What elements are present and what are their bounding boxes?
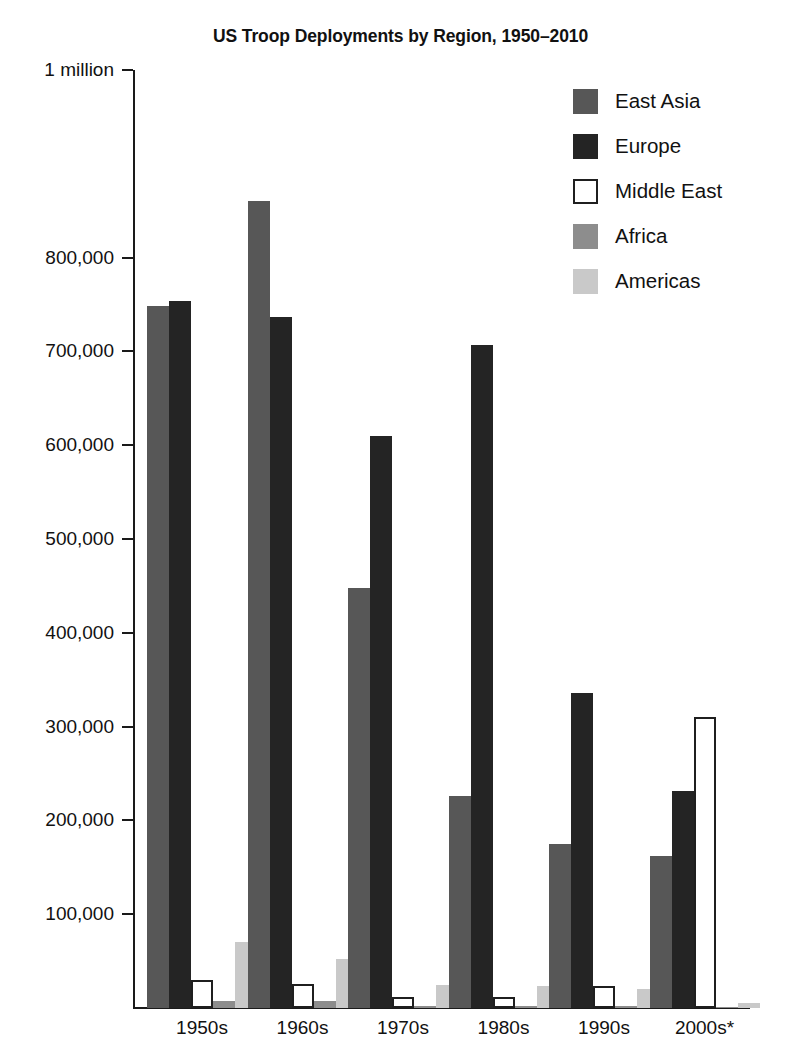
y-axis-tick-label: 400,000 [45, 622, 114, 644]
bar [449, 796, 471, 1008]
legend-label: East Asia [615, 89, 700, 113]
bar [348, 588, 370, 1008]
y-axis-tick [122, 819, 133, 821]
legend-swatch-europe-icon [573, 134, 598, 159]
legend-label: Americas [615, 269, 700, 293]
bar-group [348, 70, 458, 1008]
y-axis-tick-label: 500,000 [45, 528, 114, 550]
bar [169, 301, 191, 1008]
y-axis-tick [122, 632, 133, 634]
bar [147, 306, 169, 1008]
x-axis-label: 1980s [449, 1017, 559, 1039]
bar [213, 1001, 235, 1009]
legend-item: Europe [573, 127, 722, 165]
y-axis-tick [122, 726, 133, 728]
bar [571, 693, 593, 1008]
y-axis-tick [122, 69, 133, 71]
legend-item: Americas [573, 262, 722, 300]
legend-swatch-east-asia-icon [573, 89, 598, 114]
bar [314, 1001, 336, 1008]
bar [694, 717, 716, 1008]
bar-group [248, 70, 358, 1008]
x-axis-label: 1950s [147, 1017, 257, 1039]
y-axis-tick-label: 700,000 [45, 340, 114, 362]
bar [471, 345, 493, 1008]
legend-item: Middle East [573, 172, 722, 210]
y-axis-tick [122, 444, 133, 446]
bar [292, 984, 314, 1008]
bar [248, 201, 270, 1008]
legend-swatch-africa-icon [573, 224, 598, 249]
y-axis-line [133, 70, 135, 1009]
bar [392, 997, 414, 1008]
bar [593, 986, 615, 1009]
legend-item: East Asia [573, 82, 722, 120]
bar [716, 1007, 738, 1009]
y-axis-tick [122, 257, 133, 259]
bar [672, 791, 694, 1008]
chart-legend: East AsiaEuropeMiddle EastAfricaAmericas [573, 82, 722, 307]
y-axis-tick [122, 350, 133, 352]
legend-label: Europe [615, 134, 681, 158]
bar [414, 1006, 436, 1008]
bar [270, 317, 292, 1008]
legend-swatch-americas-icon [573, 269, 598, 294]
y-axis-tick-label: 600,000 [45, 434, 114, 456]
x-axis-label: 1960s [248, 1017, 358, 1039]
y-axis-tick-label: 300,000 [45, 716, 114, 738]
bar-group [449, 70, 559, 1008]
bar [615, 1006, 637, 1008]
y-axis-tick-label: 100,000 [45, 903, 114, 925]
bar-group [147, 70, 257, 1008]
legend-label: Middle East [615, 179, 722, 203]
bar [650, 856, 672, 1008]
x-axis-label: 1970s [348, 1017, 458, 1039]
bar [370, 436, 392, 1008]
bar [549, 844, 571, 1008]
y-axis-tick [122, 538, 133, 540]
y-axis-tick-label: 800,000 [45, 247, 114, 269]
x-axis-label: 1990s [549, 1017, 659, 1039]
bar [515, 1006, 537, 1008]
y-axis-tick-label: 1 million [44, 59, 114, 81]
bar [191, 980, 213, 1008]
legend-label: Africa [615, 224, 667, 248]
x-axis-label: 2000s* [650, 1017, 760, 1039]
y-axis-tick-label: 200,000 [45, 809, 114, 831]
y-axis-tick [122, 913, 133, 915]
legend-item: Africa [573, 217, 722, 255]
bar [493, 997, 515, 1008]
legend-swatch-middle-east-icon [573, 179, 598, 204]
bar-chart: US Troop Deployments by Region, 1950–201… [0, 0, 801, 1055]
bar [738, 1003, 760, 1008]
